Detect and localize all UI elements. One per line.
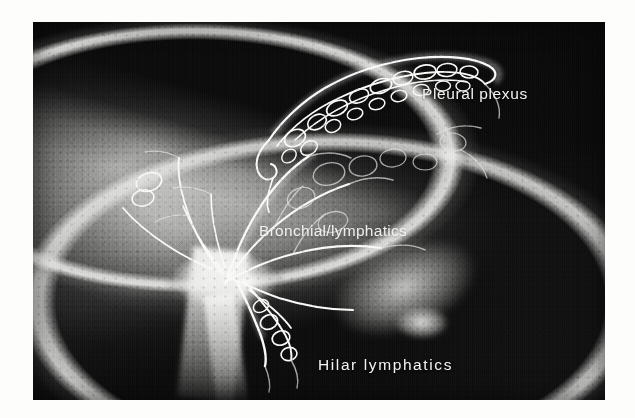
figure-page: Pleural plexus Bronchial/lymphatics Hila… bbox=[0, 0, 635, 418]
radiograph-plate: Pleural plexus Bronchial/lymphatics Hila… bbox=[33, 22, 605, 400]
label-pleural-plexus: Pleural plexus bbox=[422, 85, 528, 103]
label-hilar-lymphatics: Hilar lymphatics bbox=[318, 356, 453, 374]
scanline-noise-layer bbox=[33, 22, 605, 400]
label-bronchial-lymphatics: Bronchial/lymphatics bbox=[259, 222, 407, 240]
